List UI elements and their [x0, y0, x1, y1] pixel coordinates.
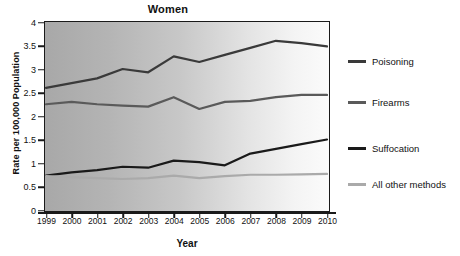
y-tick-label: 1 [0, 159, 36, 169]
series-line-firearms [46, 95, 327, 109]
y-tick-label: 0.5 [0, 182, 36, 192]
y-tick-label: 3.5 [0, 41, 36, 51]
series-line-all-other-methods [46, 174, 327, 179]
legend-item-all-other-methods[interactable]: All other methods [348, 179, 446, 190]
plot-area [44, 21, 330, 212]
legend-label: Poisoning [372, 56, 414, 67]
x-tick-mark [122, 212, 124, 218]
legend-label: Suffocation [372, 143, 419, 154]
chart-title: Women [0, 3, 336, 15]
legend-swatch [348, 183, 366, 186]
y-tick-label: 3 [0, 65, 36, 75]
x-tick-mark [46, 212, 48, 218]
y-tick-label: 4 [0, 18, 36, 28]
legend-item-poisoning[interactable]: Poisoning [348, 56, 414, 67]
x-axis-line [38, 212, 336, 214]
series-lines [45, 22, 328, 210]
legend-swatch [348, 147, 366, 150]
x-tick-mark [250, 212, 252, 218]
x-tick-mark [276, 212, 278, 218]
y-tick-label: 2 [0, 112, 36, 122]
legend-item-firearms[interactable]: Firearms [348, 97, 409, 108]
x-tick-mark [71, 212, 73, 218]
x-tick-mark [97, 212, 99, 218]
x-tick-mark [173, 212, 175, 218]
x-tick-mark [327, 212, 329, 218]
legend-swatch [348, 60, 366, 63]
legend-label: Firearms [372, 97, 409, 108]
x-tick-mark [301, 212, 303, 218]
x-axis-title: Year [42, 238, 332, 249]
x-tick-mark [148, 212, 150, 218]
y-tick-label: 0 [0, 206, 36, 216]
legend-swatch [348, 101, 366, 104]
x-tick-mark [225, 212, 227, 218]
y-tick-label: 1.5 [0, 135, 36, 145]
legend-item-suffocation[interactable]: Suffocation [348, 143, 419, 154]
series-line-suffocation [46, 140, 327, 176]
legend-label: All other methods [372, 179, 446, 190]
series-line-poisoning [46, 41, 327, 88]
chart-container: Women Rate per 100,000 Population 00.511… [0, 0, 460, 256]
x-tick-mark [199, 212, 201, 218]
y-tick-label: 2.5 [0, 88, 36, 98]
